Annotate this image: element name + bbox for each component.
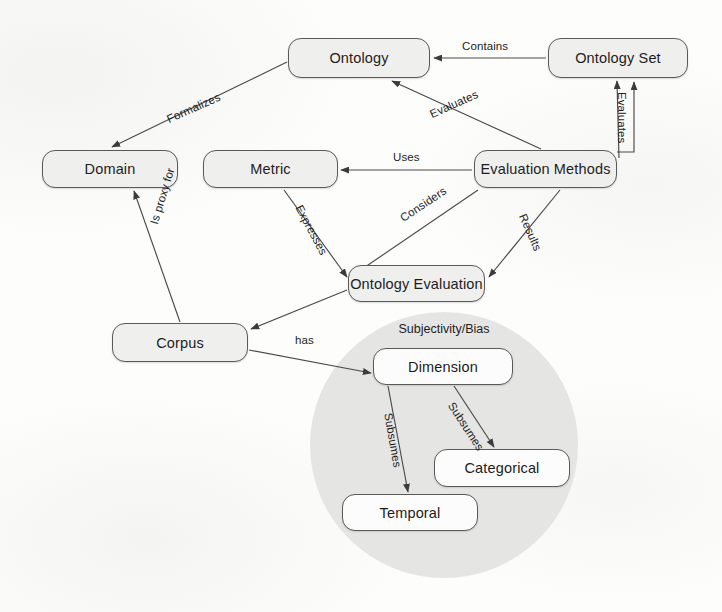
edge-label-has: has bbox=[295, 334, 314, 346]
node-dimension[interactable]: Dimension bbox=[373, 348, 513, 385]
node-corpus[interactable]: Corpus bbox=[112, 323, 248, 362]
node-evaluation-methods[interactable]: Evaluation Methods bbox=[474, 150, 617, 188]
node-categorical[interactable]: Categorical bbox=[434, 449, 570, 487]
node-label: Corpus bbox=[156, 335, 204, 351]
node-ontology-set[interactable]: Ontology Set bbox=[548, 38, 688, 78]
edge-label-contains: Contains bbox=[462, 40, 508, 52]
edge-label-evaluates-2: Evaluates bbox=[616, 92, 628, 143]
node-ontology[interactable]: Ontology bbox=[288, 38, 430, 78]
node-temporal[interactable]: Temporal bbox=[342, 494, 478, 531]
node-label: Dimension bbox=[408, 359, 478, 375]
edge-considers-corpus bbox=[251, 290, 347, 329]
node-ontology-evaluation[interactable]: Ontology Evaluation bbox=[348, 265, 485, 302]
node-label: Metric bbox=[250, 161, 290, 177]
node-label: Ontology Evaluation bbox=[350, 276, 483, 292]
edge-has bbox=[249, 350, 371, 373]
node-label: Temporal bbox=[380, 505, 441, 521]
node-label: Ontology Set bbox=[575, 50, 661, 66]
node-label: Ontology bbox=[329, 50, 388, 66]
edge-label-uses: Uses bbox=[393, 151, 420, 163]
node-domain[interactable]: Domain bbox=[42, 150, 178, 188]
node-label: Evaluation Methods bbox=[480, 161, 610, 177]
concept-diagram: Subjectivity/Bias OntologyOntology SetDo… bbox=[0, 0, 722, 612]
node-label: Domain bbox=[85, 161, 136, 177]
node-metric[interactable]: Metric bbox=[203, 150, 338, 188]
node-label: Categorical bbox=[465, 460, 540, 476]
